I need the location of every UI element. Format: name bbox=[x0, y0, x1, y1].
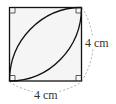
geometry-figure: 4 cm 4 cm bbox=[0, 0, 116, 104]
bottom-side-length-label: 4 cm bbox=[33, 89, 59, 101]
square bbox=[10, 8, 82, 82]
right-side-length-label: 4 cm bbox=[84, 37, 110, 49]
